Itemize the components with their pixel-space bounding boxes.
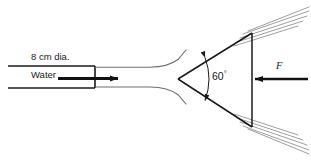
spray-lower [234,114,309,154]
spray-line [234,114,298,135]
spray-line [234,26,298,46]
cone-angle-label: 60° [212,71,227,82]
spray-line [237,118,303,140]
fluid-label: Water [31,70,56,80]
jet-lower-boundary [96,87,186,104]
spray-upper [234,7,309,46]
angle-arc-indicator [205,58,209,101]
pipe-diameter-label: 8 cm dia. [31,52,70,62]
jet-upper-boundary [96,50,186,67]
figure-canvas: 8 cm dia. Water 60° F [0,0,311,164]
force-label: F [276,61,282,72]
cone-angle-value: 60 [212,70,224,82]
degree-symbol: ° [224,69,227,78]
spray-line [243,126,309,150]
cone-lower-face [178,79,252,127]
diagram-svg [0,0,311,164]
jet-outline [96,50,186,104]
spray-line [248,129,309,154]
spray-line [248,7,309,31]
